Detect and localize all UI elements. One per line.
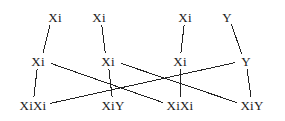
node-xi-gamete-row-1: Xi — [30, 55, 45, 68]
node-xi-parent-gametes-row-1: Xi — [47, 11, 62, 24]
genetics-cross-diagram: XiXiXiYXiXiXiYXiXiXiYXiXiXiY — [0, 0, 285, 121]
edge-t3-to-m3 — [181, 25, 184, 53]
edge-m4-to-b1 — [50, 63, 235, 104]
edge-m1-to-b1 — [34, 69, 37, 97]
edge-m2-to-b2 — [109, 69, 112, 97]
edge-t4-to-m4 — [231, 24, 241, 53]
edge-t1-to-m1 — [43, 24, 50, 53]
node-xiy-offspring-row-4: XiY — [240, 99, 265, 112]
node-xixi-offspring-row-1: XiXi — [19, 99, 48, 112]
node-y-parent-gametes-row-4: Y — [221, 11, 233, 24]
node-xiy-offspring-row-2: XiY — [101, 99, 126, 112]
node-xi-gamete-row-2: Xi — [100, 55, 115, 68]
edge-m4-to-b4 — [247, 69, 251, 97]
node-y-gamete-row-4: Y — [240, 55, 252, 68]
edge-t2-to-m2 — [102, 25, 106, 53]
node-xi-gamete-row-3: Xi — [172, 55, 187, 68]
node-xixi-offspring-row-3: XiXi — [166, 99, 195, 112]
node-xi-parent-gametes-row-2: Xi — [91, 11, 106, 24]
node-xi-parent-gametes-row-3: Xi — [177, 11, 192, 24]
